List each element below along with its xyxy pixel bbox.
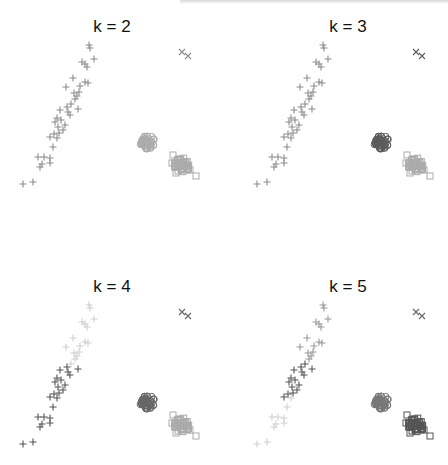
panel-k5: k = 5 [224, 260, 448, 465]
scatter-plot [0, 260, 224, 465]
scatter-plot [224, 260, 448, 465]
panel-k3: k = 3 [224, 0, 448, 232]
scatter-plot [224, 0, 448, 232]
scatter-plot [0, 0, 224, 232]
panel-k2: k = 2 [0, 0, 224, 232]
panel-k4: k = 4 [0, 260, 224, 465]
